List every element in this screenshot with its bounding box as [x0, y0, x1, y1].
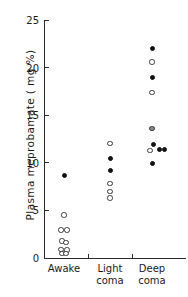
y-tick-mark [45, 162, 49, 163]
y-tick-mark [45, 20, 49, 21]
x-tick-mark [132, 254, 133, 258]
x-category-label-2: Deep coma [122, 263, 182, 286]
data-point [149, 126, 154, 131]
data-point [149, 59, 154, 64]
data-point [61, 212, 66, 217]
data-point [63, 251, 68, 256]
data-point [107, 141, 112, 146]
scatter-plot-figure: Plasma meprobamate ( mg %) 0510152025 Aw… [0, 0, 188, 297]
data-point [107, 195, 112, 200]
data-point [149, 90, 154, 95]
data-point [150, 46, 155, 51]
data-point [150, 75, 155, 80]
data-point [107, 181, 112, 186]
x-tick-mark [88, 254, 89, 258]
data-point [147, 148, 152, 153]
y-tick-label: 5 [13, 205, 39, 216]
y-tick-label: 15 [13, 110, 39, 121]
y-tick-mark [45, 67, 49, 68]
data-point [157, 147, 162, 152]
data-point [63, 240, 68, 245]
y-tick-label: 0 [13, 253, 39, 264]
data-point [64, 227, 69, 232]
x-axis-line [44, 258, 186, 259]
data-point [108, 156, 113, 161]
y-tick-label: 20 [13, 62, 39, 73]
data-point [151, 142, 156, 147]
y-tick-mark [45, 115, 49, 116]
data-point [162, 147, 167, 152]
data-point [150, 161, 155, 166]
data-point [62, 173, 67, 178]
y-tick-mark [45, 210, 49, 211]
y-axis-line [44, 20, 45, 258]
y-tick-label: 25 [13, 15, 39, 26]
y-tick-label: 10 [13, 157, 39, 168]
data-point [58, 227, 63, 232]
data-point [107, 189, 112, 194]
data-point [108, 168, 113, 173]
